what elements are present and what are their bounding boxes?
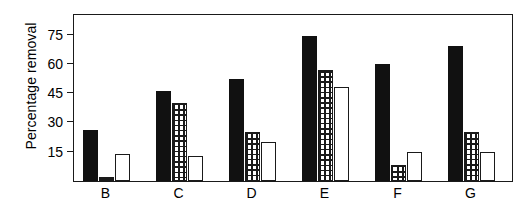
y-tick-label-30: 30 xyxy=(47,115,63,129)
bar-g-open-white xyxy=(480,152,495,181)
y-tick-60: 60 xyxy=(67,63,74,64)
y-tick-label-45: 45 xyxy=(47,86,63,100)
bar-e-open-white xyxy=(334,87,349,181)
bar-g-solid-black xyxy=(448,46,463,181)
bar-d-grid-hatched xyxy=(245,132,260,181)
bar-d-solid-black xyxy=(229,79,244,181)
y-tick-label-15: 15 xyxy=(47,145,63,159)
x-tick-label-b: B xyxy=(101,186,110,200)
y-axis-title: Percentage removal xyxy=(23,1,39,171)
y-tick-15: 15 xyxy=(67,151,74,152)
bar-b-solid-black xyxy=(83,130,98,181)
x-tick-label-e: E xyxy=(320,186,329,200)
bar-c-grid-hatched xyxy=(172,103,187,181)
bar-b-open-white xyxy=(115,154,130,181)
y-tick-75: 75 xyxy=(67,34,74,35)
bar-f-open-white xyxy=(407,152,422,181)
bar-e-grid-hatched xyxy=(318,70,333,181)
x-tick-label-f: F xyxy=(393,186,402,200)
plot-area: 75 60 45 30 15 xyxy=(73,14,513,182)
x-tick-label-d: D xyxy=(246,186,256,200)
bar-g-grid-hatched xyxy=(464,132,479,181)
bar-e-solid-black xyxy=(302,36,317,181)
bar-d-open-white xyxy=(261,142,276,181)
y-tick-30: 30 xyxy=(67,121,74,122)
y-tick-45: 45 xyxy=(67,92,74,93)
bar-series-container xyxy=(74,15,512,181)
bar-f-solid-black xyxy=(375,64,390,181)
bar-b-grid-hatched xyxy=(99,177,114,181)
x-tick-label-c: C xyxy=(173,186,183,200)
x-tick-label-g: G xyxy=(465,186,476,200)
bar-chart-figure: Percentage removal 75 60 45 30 15 B C D … xyxy=(0,0,523,215)
bar-c-open-white xyxy=(188,156,203,181)
bar-c-solid-black xyxy=(156,91,171,181)
y-tick-label-60: 60 xyxy=(47,57,63,71)
bar-f-grid-hatched xyxy=(391,165,406,181)
y-tick-label-75: 75 xyxy=(47,28,63,42)
